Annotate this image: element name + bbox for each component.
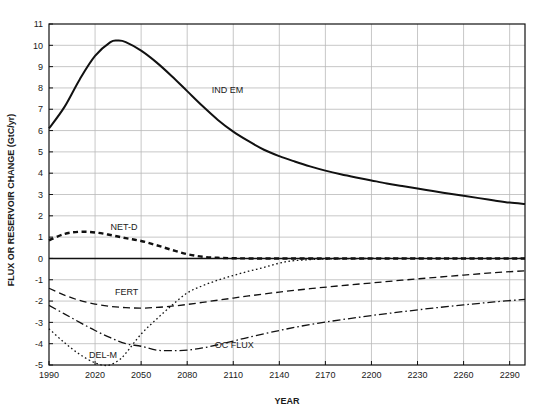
series-line-oc-flux	[49, 299, 525, 350]
series-line-net-d	[49, 232, 525, 259]
chart-figure: -5-4-3-2-1012345678910111990202020502080…	[0, 0, 544, 411]
x-tick-label: 2140	[269, 370, 289, 380]
y-tick-label: -4	[35, 339, 43, 349]
x-tick-label: 2050	[131, 370, 151, 380]
y-tick-label: 2	[38, 211, 43, 221]
x-tick-label: 2200	[361, 370, 381, 380]
x-tick-label: 2230	[408, 370, 428, 380]
y-tick-label: -5	[35, 360, 43, 370]
y-tick-label: 3	[38, 190, 43, 200]
x-tick-label: 2110	[224, 370, 243, 380]
y-tick-label: 10	[33, 41, 43, 51]
y-tick-label: 0	[38, 254, 43, 264]
series-label-oc-flux: OC FLUX	[215, 340, 254, 350]
tick-labels: -5-4-3-2-1012345678910111990202020502080…	[33, 19, 520, 380]
y-tick-label: 6	[38, 126, 43, 136]
chart-canvas: -5-4-3-2-1012345678910111990202020502080…	[0, 0, 544, 411]
y-tick-label: -3	[35, 318, 43, 328]
x-tick-label: 2170	[315, 370, 335, 380]
y-tick-label: 7	[38, 104, 43, 114]
series-line-del-m	[49, 258, 525, 365]
series-annotations: IND EMNET-DFERTDEL-MOC FLUX	[89, 85, 254, 359]
x-tick-label: 2080	[177, 370, 197, 380]
series-paths	[49, 40, 525, 365]
y-tick-label: -2	[35, 296, 43, 306]
x-tick-label: 2020	[85, 370, 105, 380]
y-tick-label: 9	[38, 62, 43, 72]
x-tick-label: 1990	[39, 370, 59, 380]
series-label-net-d: NET-D	[110, 222, 138, 232]
y-tick-label: -1	[35, 275, 43, 285]
y-tick-label: 8	[38, 83, 43, 93]
series-label-del-m: DEL-M	[89, 350, 117, 360]
y-tick-label: 1	[38, 232, 43, 242]
series-label-fert: FERT	[115, 287, 139, 297]
y-tick-label: 11	[34, 19, 43, 29]
x-tick-label: 2290	[500, 370, 520, 380]
y-tick-label: 5	[38, 147, 43, 157]
x-tick-label: 2260	[454, 370, 474, 380]
x-axis-title: YEAR	[274, 396, 300, 406]
y-tick-label: 4	[38, 168, 43, 178]
y-axis-title: FLUX OR RESERVOIR CHANGE (GtC/yr)	[6, 114, 16, 286]
series-label-ind-em: IND EM	[212, 85, 244, 95]
series-line-ind-em	[49, 40, 525, 204]
